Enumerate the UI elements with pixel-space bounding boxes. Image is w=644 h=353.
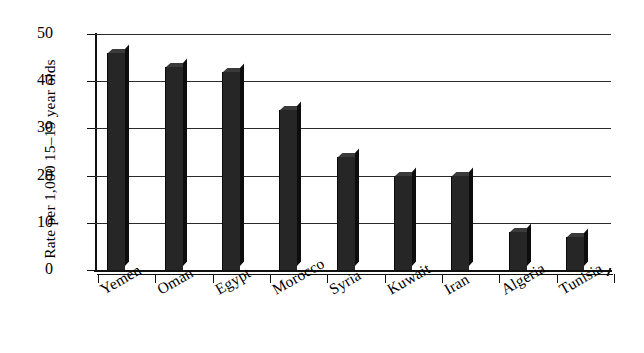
bar <box>279 110 297 270</box>
plot-area: 50403020100 <box>95 34 611 270</box>
bar-side-face <box>183 59 187 266</box>
bar <box>222 72 240 270</box>
bar <box>451 176 469 270</box>
y-axis-tick-label: 30 <box>13 119 53 135</box>
y-axis-tick-label: 10 <box>13 214 53 230</box>
bar-chart: Rate per 1,000 15–19 year olds 504030201… <box>0 0 644 353</box>
y-axis-tick <box>87 223 95 224</box>
y-axis-tick-label: 20 <box>13 167 53 183</box>
y-axis-title: Rate per 1,000 15–19 year olds <box>41 29 59 289</box>
gridline <box>95 34 611 35</box>
bar-side-face <box>412 167 416 266</box>
y-axis-tick-label: 50 <box>13 25 53 41</box>
y-axis-tick <box>87 128 95 129</box>
bar <box>165 67 183 270</box>
bar-side-face <box>355 148 359 266</box>
x-axis-tick <box>614 274 615 283</box>
bar-side-face <box>527 224 531 266</box>
y-axis-tick-label: 40 <box>13 72 53 88</box>
y-axis-tick <box>87 176 95 177</box>
bar-side-face <box>125 44 129 266</box>
bar-side-face <box>469 167 473 266</box>
bar <box>566 237 584 270</box>
y-axis-tick <box>87 81 95 82</box>
y-axis-tick-label: 0 <box>13 261 53 277</box>
bar-side-face <box>240 63 244 266</box>
bar-side-face <box>584 229 588 266</box>
bar-side-face <box>297 101 301 266</box>
bar <box>107 53 125 270</box>
bar <box>337 157 355 270</box>
bar <box>509 232 527 270</box>
y-axis-tick <box>87 34 95 35</box>
bar <box>394 176 412 270</box>
